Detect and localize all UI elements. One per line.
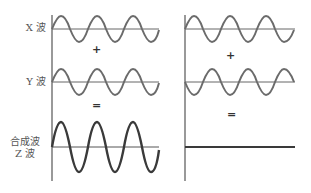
destructive-interference-panel (185, 15, 295, 181)
constructive-interference-panel (52, 15, 159, 181)
interference-diagram (0, 0, 311, 193)
